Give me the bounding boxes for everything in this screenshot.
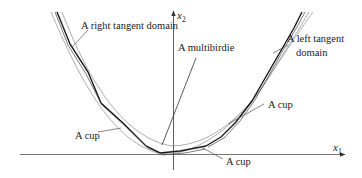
diagram-canvas: A right tangent domain A multibirdie A l… bbox=[0, 0, 362, 178]
label-cup-bottom: A cup bbox=[226, 156, 251, 167]
label-left-tangent-line2: domain bbox=[296, 47, 328, 58]
cup-bottom-pointer bbox=[201, 147, 223, 159]
multibirdie-pointer bbox=[162, 58, 196, 145]
right-tangent-pointer bbox=[72, 30, 88, 47]
label-cup-right: A cup bbox=[268, 99, 293, 110]
label-right-tangent-domain: A right tangent domain bbox=[81, 20, 179, 31]
x1-axis-label: x1 bbox=[332, 141, 342, 156]
label-left-tangent-line1: A left tangent bbox=[287, 33, 344, 44]
cup-left-pointer bbox=[98, 128, 121, 132]
inner-parabola-curve bbox=[62, 12, 309, 146]
label-cup-left: A cup bbox=[75, 130, 100, 141]
left-branch-polygonal-thick bbox=[57, 12, 160, 153]
label-multibirdie: A multibirdie bbox=[178, 42, 235, 53]
bottom-segment bbox=[160, 146, 206, 153]
